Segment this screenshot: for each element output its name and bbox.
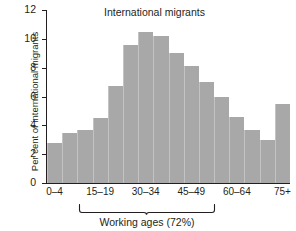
x-tick-label: 15–19 (86, 186, 114, 197)
bar (260, 140, 275, 183)
chart-figure: Per cent of international migrants Inter… (0, 0, 296, 231)
working-ages-label: Working ages (72%) (100, 216, 195, 228)
y-tick: 8 (42, 68, 46, 69)
y-tick-label: 10 (24, 32, 36, 44)
bar (123, 45, 138, 183)
bar (229, 117, 244, 183)
bar-series (47, 10, 290, 183)
y-tick-label: 2 (30, 147, 36, 159)
bar (184, 66, 199, 183)
x-tick-label: 30–34 (132, 186, 160, 197)
bar (47, 143, 62, 183)
bar (138, 32, 153, 183)
y-tick-label: 6 (30, 90, 36, 102)
x-tick-label: 45–49 (177, 186, 205, 197)
bar (244, 130, 259, 183)
bar (275, 104, 290, 183)
bar (214, 97, 229, 184)
y-tick: 6 (42, 97, 46, 98)
y-tick: 12 (42, 10, 46, 11)
working-ages-bracket-icon (78, 204, 216, 215)
x-axis-tick-labels: 0–415–1930–3445–4960–6475+ (46, 186, 296, 202)
bar (93, 118, 108, 183)
plot-area: 024681012 (46, 10, 290, 184)
bar (62, 133, 77, 183)
y-tick-label: 4 (30, 118, 36, 130)
y-tick: 4 (42, 125, 46, 126)
x-tick-label: 60–64 (223, 186, 251, 197)
bar (77, 130, 92, 183)
x-tick-label: 0–4 (46, 186, 63, 197)
bar (153, 36, 168, 183)
y-tick-label: 0 (30, 176, 36, 188)
y-tick: 10 (42, 39, 46, 40)
y-tick: 0 (42, 183, 46, 184)
x-axis-line (46, 183, 290, 184)
bar (199, 82, 214, 183)
bar (169, 53, 184, 183)
y-tick-label: 12 (24, 3, 36, 15)
bar (108, 86, 123, 183)
y-tick: 2 (42, 154, 46, 155)
y-tick-label: 8 (30, 61, 36, 73)
x-tick-label: 75+ (274, 186, 291, 197)
